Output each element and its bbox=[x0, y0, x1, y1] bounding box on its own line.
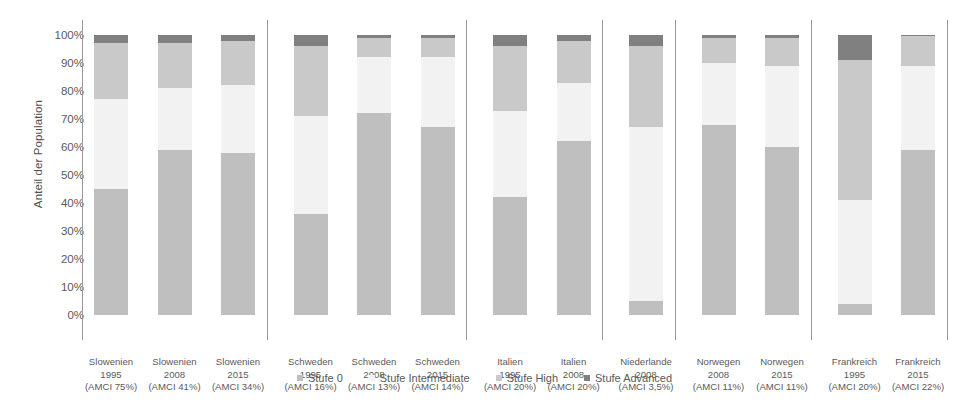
legend-item[interactable]: Stufe 0 bbox=[297, 372, 343, 384]
bar-segment bbox=[357, 38, 391, 58]
bar-segment bbox=[158, 150, 192, 315]
y-axis-tick-label: 70% bbox=[44, 113, 84, 125]
legend-swatch-icon bbox=[584, 375, 590, 381]
legend-label: Stufe Advanced bbox=[595, 372, 672, 384]
bar-column bbox=[221, 35, 255, 315]
y-axis-tick-label: 90% bbox=[44, 57, 84, 69]
bar-column bbox=[765, 35, 799, 315]
y-axis-tick-label: 0% bbox=[44, 309, 84, 321]
y-axis-tick-label: 60% bbox=[44, 141, 84, 153]
bar-segment bbox=[221, 41, 255, 86]
bar-segment bbox=[557, 41, 591, 83]
group-separator-line bbox=[267, 20, 268, 340]
y-axis-tick-label: 20% bbox=[44, 253, 84, 265]
bar-segment bbox=[158, 88, 192, 150]
bar-segment bbox=[765, 147, 799, 315]
y-axis-line bbox=[82, 20, 83, 340]
bar-column bbox=[629, 35, 663, 315]
legend-label: Stufe Intermediate bbox=[380, 372, 470, 384]
bar-column bbox=[94, 35, 128, 315]
bar-segment bbox=[94, 189, 128, 315]
legend-item[interactable]: Stufe High bbox=[496, 372, 558, 384]
bar-segment bbox=[94, 43, 128, 99]
bar-segment bbox=[629, 301, 663, 315]
bar-segment bbox=[294, 214, 328, 315]
bar-segment bbox=[493, 197, 527, 315]
y-axis-tick-label: 50% bbox=[44, 169, 84, 181]
stacked-bar-chart: Anteil der Population 100%90%80%70%60%50… bbox=[0, 0, 969, 405]
bar-segment bbox=[838, 35, 872, 60]
bar-segment bbox=[294, 116, 328, 214]
bar-segment bbox=[629, 127, 663, 301]
x-axis-label-country: Frankreich bbox=[870, 356, 966, 369]
bar-segment bbox=[765, 66, 799, 147]
group-separator-line bbox=[675, 20, 676, 340]
bar-segment bbox=[629, 46, 663, 127]
legend-swatch-icon bbox=[369, 375, 375, 381]
legend-item[interactable]: Stufe Intermediate bbox=[369, 372, 470, 384]
bar-segment bbox=[702, 38, 736, 63]
bar-segment bbox=[901, 150, 935, 315]
bar-segment bbox=[294, 35, 328, 46]
bar-segment bbox=[294, 46, 328, 116]
bar-segment bbox=[493, 111, 527, 198]
y-axis-tick-label: 10% bbox=[44, 281, 84, 293]
bar-segment bbox=[901, 36, 935, 65]
bar-segment bbox=[838, 200, 872, 304]
bar-segment bbox=[901, 66, 935, 150]
bar-column bbox=[557, 35, 591, 315]
bar-segment bbox=[421, 57, 455, 127]
bar-column bbox=[357, 35, 391, 315]
bar-segment bbox=[158, 43, 192, 88]
bar-segment bbox=[838, 304, 872, 315]
bar-segment bbox=[94, 35, 128, 43]
legend-label: Stufe High bbox=[507, 372, 558, 384]
bar-column bbox=[702, 35, 736, 315]
y-axis-tick-label: 80% bbox=[44, 85, 84, 97]
legend-item[interactable]: Stufe Advanced bbox=[584, 372, 672, 384]
y-axis-tick-label: 40% bbox=[44, 197, 84, 209]
y-axis-tick-labels: 100%90%80%70%60%50%40%30%20%10%0% bbox=[40, 35, 84, 315]
bar-segment bbox=[702, 125, 736, 315]
bar-segment bbox=[158, 35, 192, 43]
legend-swatch-icon bbox=[297, 375, 303, 381]
bar-segment bbox=[557, 141, 591, 315]
group-separator-line bbox=[466, 20, 467, 340]
legend-swatch-icon bbox=[496, 375, 502, 381]
bar-column bbox=[901, 35, 935, 315]
y-axis-tick-label: 30% bbox=[44, 225, 84, 237]
group-separator-line bbox=[947, 20, 948, 340]
bar-segment bbox=[557, 83, 591, 142]
bar-segment bbox=[702, 63, 736, 125]
bar-segment bbox=[357, 113, 391, 315]
bar-column bbox=[421, 35, 455, 315]
group-separator-line bbox=[602, 20, 603, 340]
bar-segment bbox=[421, 127, 455, 315]
bar-segment bbox=[94, 99, 128, 189]
bar-segment bbox=[838, 60, 872, 200]
bar-segment bbox=[629, 35, 663, 46]
chart-legend: Stufe 0Stufe IntermediateStufe HighStufe… bbox=[0, 372, 969, 384]
bar-segment bbox=[221, 85, 255, 152]
plot-area: Slowenien1995(AMCI 75%)Slowenien2008(AMC… bbox=[88, 35, 943, 315]
group-separator-line bbox=[811, 20, 812, 340]
bar-column bbox=[838, 35, 872, 315]
legend-label: Stufe 0 bbox=[308, 372, 343, 384]
bar-segment bbox=[765, 38, 799, 66]
bar-column bbox=[294, 35, 328, 315]
bar-segment bbox=[493, 35, 527, 46]
bar-segment bbox=[221, 153, 255, 315]
bar-segment bbox=[493, 46, 527, 110]
y-axis-tick-label: 100% bbox=[44, 29, 84, 41]
bar-column bbox=[493, 35, 527, 315]
bar-segment bbox=[421, 38, 455, 58]
bar-column bbox=[158, 35, 192, 315]
bar-segment bbox=[357, 57, 391, 113]
